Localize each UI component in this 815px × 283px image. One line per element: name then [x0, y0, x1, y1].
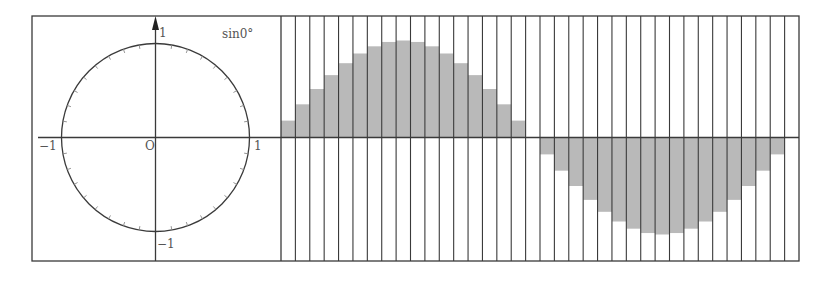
sine-bar [626, 138, 640, 229]
sine-bar [454, 63, 468, 137]
circle-tick [139, 226, 140, 230]
circle-tick [213, 65, 216, 68]
sine-bar [770, 138, 784, 155]
sine-bar [612, 138, 626, 222]
circle-tick [74, 183, 77, 185]
circle-tick [186, 222, 187, 226]
origin-label: O [145, 139, 155, 153]
x-negative-label: −1 [39, 139, 57, 153]
sine-bar [281, 121, 295, 138]
sine-bar [396, 41, 410, 138]
sine-bar [324, 75, 338, 137]
sine-bar [339, 63, 353, 137]
sine-bar [497, 104, 511, 137]
sine-bar [295, 104, 309, 137]
sine-bar [511, 121, 525, 138]
circle-tick [201, 56, 203, 59]
circle-tick [213, 206, 216, 209]
sine-bar [698, 138, 712, 222]
sine-bar [482, 89, 496, 138]
circle-tick [201, 215, 203, 218]
circle-tick [224, 77, 227, 80]
circle-tick [240, 168, 244, 169]
circle-tick [139, 45, 140, 49]
x-positive-label: 1 [254, 139, 262, 153]
sine-bar [411, 42, 425, 138]
circle-tick [240, 105, 244, 106]
sine-unit-circle-diagram: sin0° 1 −1 −1 1 O [0, 0, 815, 283]
circle-tick [109, 56, 111, 59]
circle-tick [123, 49, 124, 53]
circle-tick [63, 153, 67, 154]
circle-tick [244, 153, 248, 154]
circle-tick [74, 91, 77, 93]
circle-tick [171, 226, 172, 230]
sine-bar [310, 89, 324, 138]
sine-bar [439, 53, 453, 137]
circle-tick [83, 77, 86, 80]
circle-tick [83, 195, 86, 198]
sine-bar [641, 138, 655, 234]
sine-bar [583, 138, 597, 200]
sine-bar [382, 42, 396, 138]
circle-tick [171, 45, 172, 49]
y-axis-arrow-icon [152, 16, 159, 30]
circle-tick [233, 91, 236, 93]
sine-bar [598, 138, 612, 212]
sine-bar [540, 138, 554, 155]
circle-tick [186, 49, 187, 53]
sine-bar [713, 138, 727, 212]
sine-bar [756, 138, 770, 171]
circle-tick [95, 206, 98, 209]
y-positive-label: 1 [159, 26, 167, 40]
circle-tick [123, 222, 124, 226]
circle-tick [67, 105, 71, 106]
sine-bar [741, 138, 755, 187]
circle-tick [67, 168, 71, 169]
circle-tick [63, 121, 67, 122]
circle-tick [233, 183, 236, 185]
sine-bar [468, 75, 482, 137]
sine-bar [670, 138, 684, 234]
sine-bar [569, 138, 583, 187]
circle-tick [244, 121, 248, 122]
sine-bar [425, 46, 439, 137]
sine-bar [353, 53, 367, 137]
sine-bar [367, 46, 381, 137]
figure-title-label: sin0° [222, 27, 253, 41]
circle-tick [95, 65, 98, 68]
sine-bar [655, 138, 669, 235]
sine-bar [727, 138, 741, 200]
circle-tick [224, 195, 227, 198]
sine-bar [554, 138, 568, 171]
sine-bar [684, 138, 698, 229]
circle-tick [109, 215, 111, 218]
y-negative-label: −1 [157, 237, 175, 251]
